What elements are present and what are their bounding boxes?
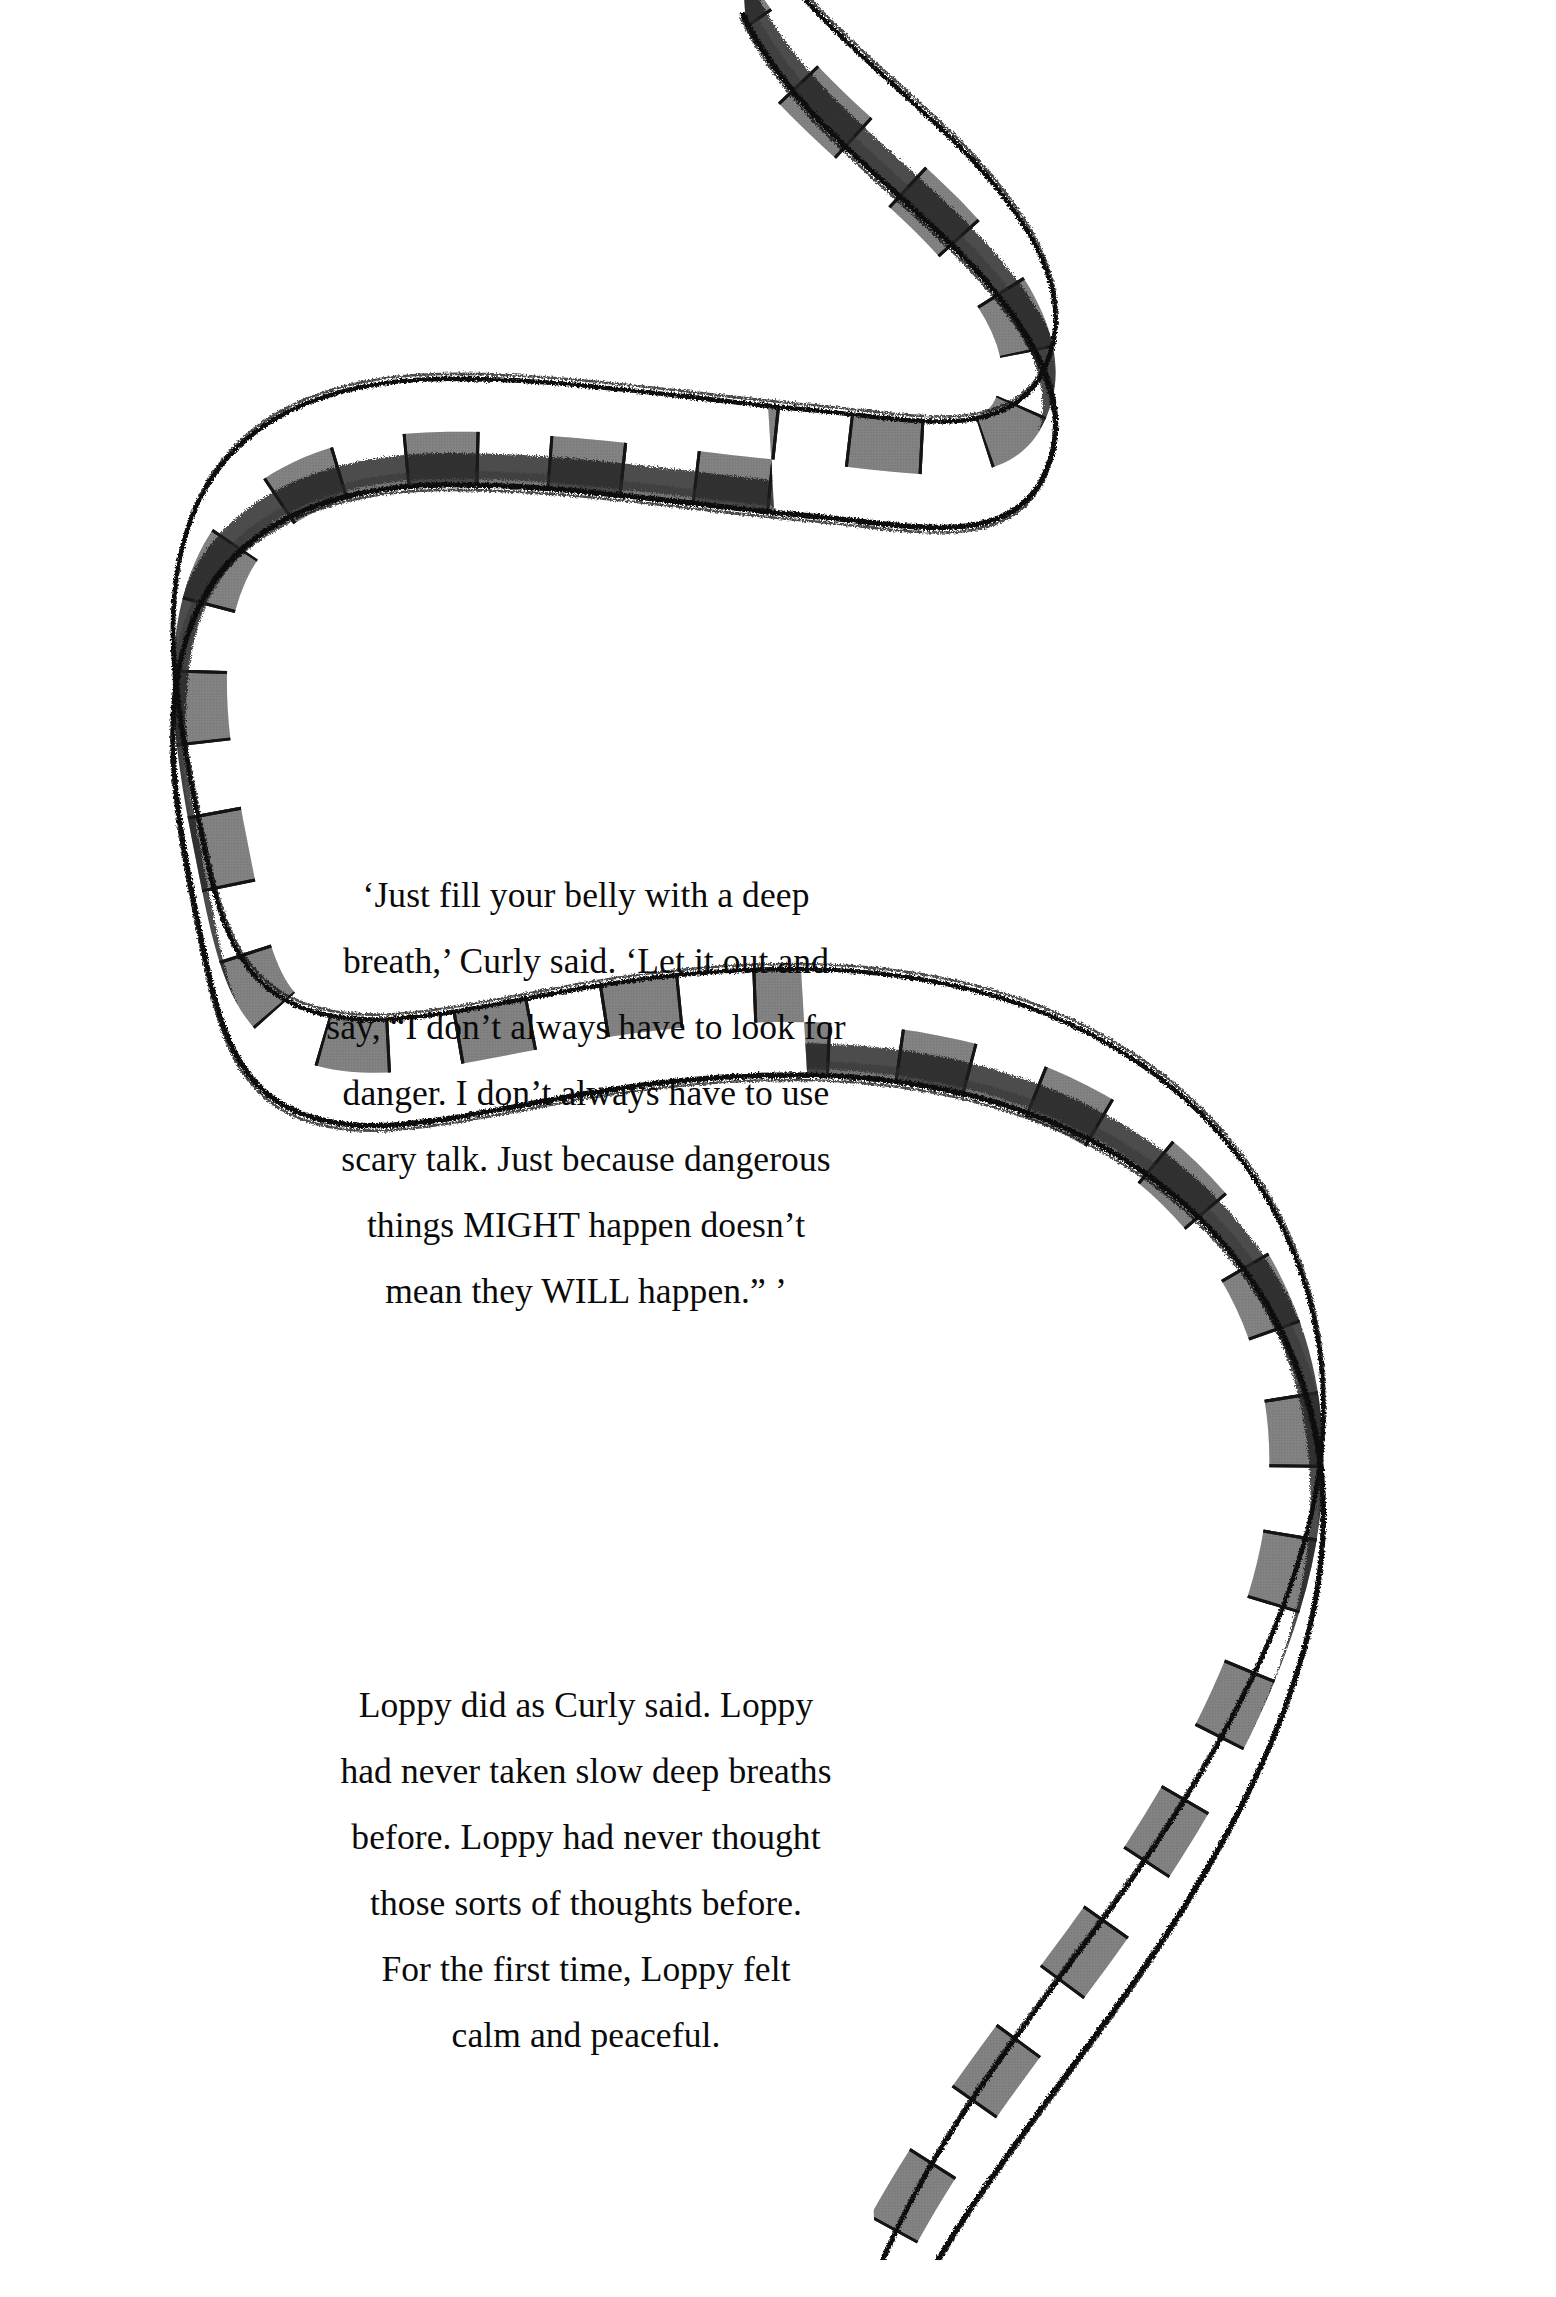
paragraph-two-line: For the first time, Loppy felt	[296, 1936, 876, 2002]
paragraph-one-line: say, “I don’t always have to look for	[296, 994, 876, 1060]
paragraph-one-line: mean they WILL happen.” ’	[296, 1258, 876, 1324]
paragraph-one-line: danger. I don’t always have to use	[296, 1060, 876, 1126]
paragraph-two-line: calm and peaceful.	[296, 2002, 876, 2068]
book-page: ‘Just fill your belly with a deep breath…	[0, 0, 1556, 2297]
paragraph-loppy-narrative: Loppy did as Curly said. Loppy had never…	[296, 1672, 876, 2068]
paragraph-curly-dialogue: ‘Just fill your belly with a deep breath…	[296, 862, 876, 1324]
paragraph-two-line: before. Loppy had never thought	[296, 1804, 876, 1870]
paragraph-one-line: breath,’ Curly said. ‘Let it out and	[296, 928, 876, 994]
paragraph-two-line: Loppy did as Curly said. Loppy	[296, 1672, 876, 1738]
paragraph-two-line: had never taken slow deep breaths	[296, 1738, 876, 1804]
paragraph-two-line: those sorts of thoughts before.	[296, 1870, 876, 1936]
paragraph-one-line: ‘Just fill your belly with a deep	[296, 862, 876, 928]
paragraph-one-line: things MIGHT happen doesn’t	[296, 1192, 876, 1258]
paragraph-one-line: scary talk. Just because dangerous	[296, 1126, 876, 1192]
